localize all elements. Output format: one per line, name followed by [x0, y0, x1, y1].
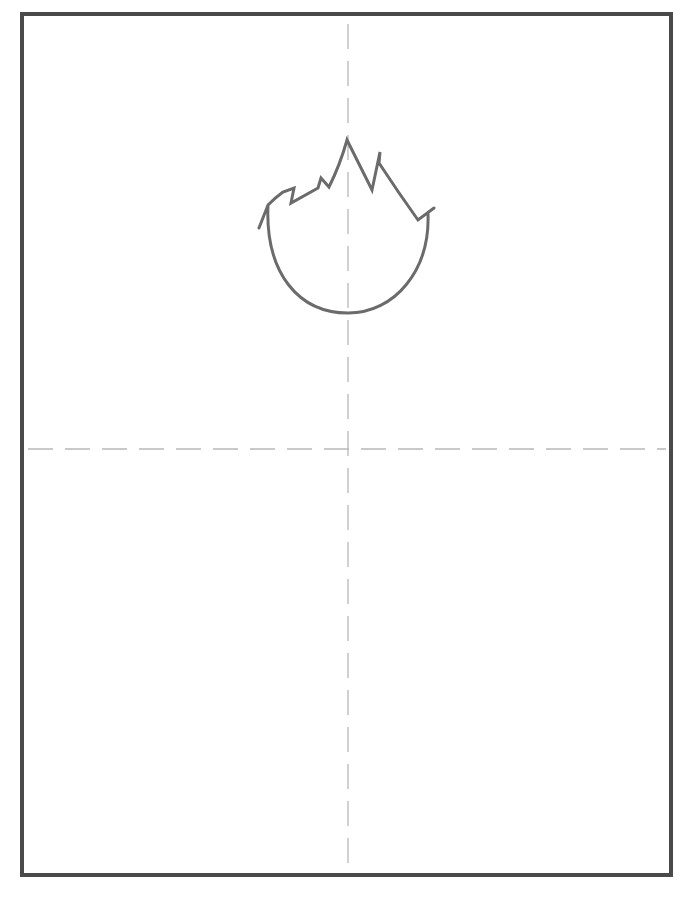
drawing-svg	[0, 0, 688, 898]
drawing-canvas	[0, 0, 688, 898]
